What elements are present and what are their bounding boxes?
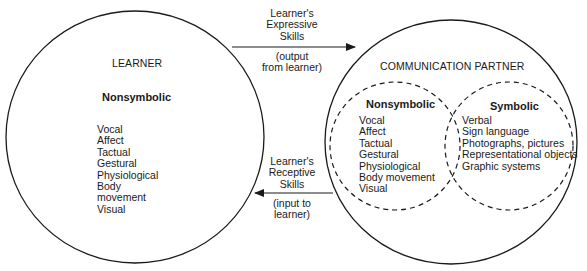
partner-symbolic-list: Verbal Sign language Photographs, pictur… [462, 115, 578, 172]
learner-item-list: Vocal Affect Tactual Gestural Physiologi… [97, 124, 158, 215]
partner-title: COMMUNICATION PARTNER [380, 61, 524, 72]
expressive-label: Learner's Expressive Skills [254, 8, 330, 42]
receptive-label: Learner's Receptive Skills [254, 156, 330, 190]
list-item: Representational objects [462, 149, 578, 160]
list-item: Visual [359, 183, 435, 194]
list-item: Gestural [97, 158, 158, 169]
receptive-note: (input to learner) [254, 198, 330, 221]
learner-title: LEARNER [112, 58, 162, 69]
list-item: Gestural [359, 149, 435, 160]
partner-nonsymbolic-list: Vocal Affect Tactual Gestural Physiologi… [359, 115, 435, 195]
expressive-note: (output from learner) [254, 51, 330, 74]
expressive-label-line3: Skills [254, 31, 330, 42]
list-item: Visual [97, 204, 158, 215]
partner-symbolic-heading: Symbolic [490, 101, 539, 112]
learner-heading: Nonsymbolic [102, 92, 171, 103]
receptive-note-line2: learner) [254, 209, 330, 220]
partner-nonsymbolic-heading: Nonsymbolic [366, 99, 435, 110]
list-item: Graphic systems [462, 161, 578, 172]
expressive-note-line2: from learner) [254, 62, 330, 73]
receptive-label-line3: Skills [254, 179, 330, 190]
